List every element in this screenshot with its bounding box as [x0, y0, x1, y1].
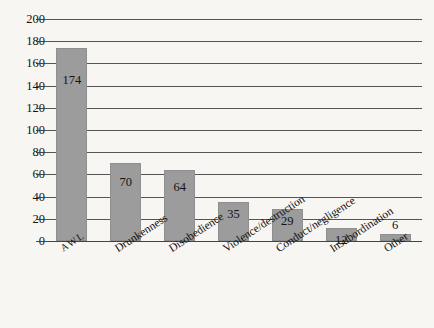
bar-value-label: 70 [100, 176, 151, 189]
gridline [45, 41, 422, 42]
bar-value-label: 64 [154, 181, 205, 194]
y-tick-mark [36, 19, 45, 20]
y-tick-mark [36, 174, 45, 175]
y-tick-mark [36, 130, 45, 131]
gridline [45, 130, 422, 131]
y-tick-mark [36, 152, 45, 153]
y-tick-mark [36, 63, 45, 64]
bar-chart: 200180160140120100806040200 174706435291… [0, 0, 434, 328]
y-tick-mark [36, 41, 45, 42]
bar-value-label: 174 [46, 74, 97, 87]
y-tick-mark [36, 86, 45, 87]
gridline [45, 152, 422, 153]
gridline [45, 108, 422, 109]
y-axis: 200180160140120100806040200 [0, 0, 45, 328]
gridline [45, 197, 422, 198]
y-tick-mark [36, 219, 45, 220]
y-tick-mark [36, 197, 45, 198]
gridline [45, 19, 422, 20]
gridline [45, 86, 422, 87]
plot-area: 17470643529126 [45, 19, 422, 241]
y-tick-mark [36, 108, 45, 109]
y-tick-mark [36, 241, 45, 242]
gridline [45, 63, 422, 64]
